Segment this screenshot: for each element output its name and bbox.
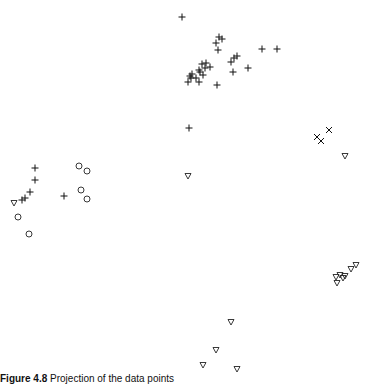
circle-marker xyxy=(15,214,21,220)
triangle-marker xyxy=(200,363,206,369)
cross-marker xyxy=(326,127,332,133)
plus-marker xyxy=(199,61,206,68)
scatter-plot xyxy=(0,0,372,372)
series-circle-markers xyxy=(15,163,90,237)
plus-marker xyxy=(185,79,192,86)
triangle-marker xyxy=(11,201,17,207)
plus-marker xyxy=(179,14,186,21)
plus-marker xyxy=(228,59,235,66)
caption-label: Figure 4.8 xyxy=(0,373,47,384)
plus-marker xyxy=(245,65,252,72)
plus-marker xyxy=(207,64,214,71)
circle-marker xyxy=(84,168,90,174)
circle-marker xyxy=(78,187,84,193)
triangle-marker xyxy=(333,275,339,281)
plus-marker xyxy=(213,40,220,47)
triangle-marker xyxy=(213,348,219,354)
plus-marker xyxy=(215,47,222,54)
plus-marker xyxy=(259,46,266,53)
triangle-marker xyxy=(342,154,348,160)
plus-marker xyxy=(203,60,210,67)
circle-marker xyxy=(84,196,90,202)
series-triangle-markers xyxy=(11,154,359,373)
plus-marker xyxy=(186,125,193,132)
triangle-marker xyxy=(234,367,240,373)
plus-marker xyxy=(196,79,203,86)
plus-marker xyxy=(27,189,34,196)
plus-marker xyxy=(214,82,221,89)
circle-marker xyxy=(26,231,32,237)
plus-marker xyxy=(274,46,281,53)
series-plus-markers xyxy=(19,14,281,204)
caption-text: Projection of the data points xyxy=(50,373,174,384)
circle-marker xyxy=(76,163,82,169)
triangle-marker xyxy=(228,320,234,326)
figure-caption: Figure 4.8 Projection of the data points xyxy=(0,373,372,384)
plus-marker xyxy=(32,177,39,184)
plus-marker xyxy=(230,69,237,76)
plus-marker xyxy=(61,193,68,200)
triangle-marker xyxy=(334,281,340,287)
plus-marker xyxy=(32,165,39,172)
plus-marker xyxy=(200,72,207,79)
plus-marker xyxy=(193,75,200,82)
series-cross-markers xyxy=(314,127,332,144)
plus-marker xyxy=(202,65,209,72)
triangle-marker xyxy=(348,267,354,273)
cross-marker xyxy=(318,138,324,144)
triangle-marker xyxy=(185,174,191,180)
